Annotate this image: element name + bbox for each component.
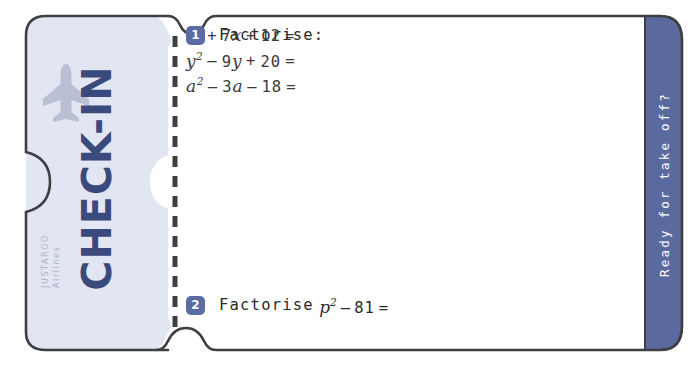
eq4-exponent: 2 [330,296,337,308]
question-number-badge-1: 1 [186,26,205,45]
equation-4: p2–81= [314,296,392,317]
eq3-exponent: 2 [197,75,204,87]
tagline-strip-fill [645,16,682,350]
eq2-equals: = [281,52,299,70]
question-1-prompt: Factorise: [219,26,324,45]
eq2-op-minus: – [203,52,221,70]
eq3-const-18: 18 [262,78,283,96]
question-2-prompt: Factorise [219,296,314,315]
eq2-var-y: y [186,50,196,70]
eq3-var-a: a [186,76,197,96]
eq2-coeff-9: 9 [222,52,232,70]
eq4-equals: = [375,299,392,317]
eq4-const-81: 81 [354,299,375,317]
equation-2: y2–9y+20= [186,46,606,72]
eq2-op-plus: + [242,52,260,70]
eq3-coeff-3: 3 [222,78,232,96]
question-1-row: 1 Factorise: [186,26,324,45]
eq2-const-20: 20 [260,52,281,70]
ticket-stub-fill [20,10,180,360]
question-2-row: 2 Factorise p2–81= [186,296,392,317]
eq2-var-y2: y [232,50,242,70]
eq3-op-minus-1: – [204,78,222,96]
eq3-var-a2: a [233,76,244,96]
question-number-badge-2: 2 [186,296,205,315]
equation-3: a2–3a–18= [186,71,606,97]
eq4-op-minus: – [337,299,354,317]
eq3-op-minus-2: – [243,78,261,96]
eq3-equals: = [282,78,300,96]
eq4-var-p: p [319,297,330,317]
questions-area: 1 Factorise: x2+7x+12= y2–9y+20= a2–3a–1… [186,20,606,350]
worksheet-page: CHECK-IN JUSTAROO Airlines 1 Factorise: … [0,0,691,381]
